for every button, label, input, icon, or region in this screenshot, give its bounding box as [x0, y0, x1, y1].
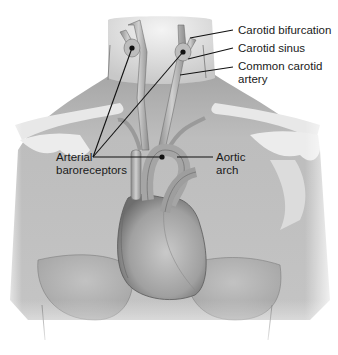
- label-common-carotid-line2: artery: [238, 73, 267, 86]
- label-carotid-bifurcation: Carotid bifurcation: [238, 24, 331, 37]
- label-arterial-line2: baroreceptors: [56, 164, 127, 177]
- left-carotid-dot: [180, 49, 185, 54]
- label-aortic-line1: Aortic: [216, 151, 245, 164]
- right-carotid-dot: [129, 45, 134, 50]
- aortic-arch-dot: [159, 154, 164, 159]
- label-carotid-sinus: Carotid sinus: [238, 42, 305, 55]
- label-aortic-line2: arch: [216, 164, 238, 177]
- label-common-carotid-line1: Common carotid: [238, 60, 322, 73]
- label-arterial-line1: Arterial: [56, 151, 92, 164]
